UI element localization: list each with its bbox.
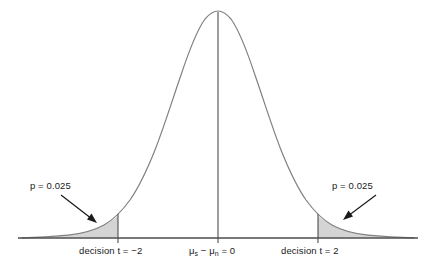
- upper-critical-tick-label: decision t = 2: [281, 245, 339, 256]
- p-value-label-right: p = 0.025: [332, 180, 373, 191]
- normal-distribution-chart: [0, 0, 440, 272]
- center-tick-label: μs − μn = 0: [189, 245, 235, 257]
- equals-zero: = 0: [219, 245, 236, 256]
- chart-canvas: p = 0.025 p = 0.025 decision t = −2 μs −…: [0, 0, 440, 272]
- p-value-label-left: p = 0.025: [30, 180, 71, 191]
- lower-critical-tick-label: decision t = −2: [79, 245, 142, 256]
- minus-operator: −: [198, 245, 209, 256]
- left-annotation-arrow: [61, 195, 97, 223]
- right-annotation-arrow: [343, 195, 376, 220]
